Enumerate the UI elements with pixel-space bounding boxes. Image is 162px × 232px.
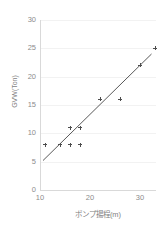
y-axis-title: GVW(Ton) [11, 52, 18, 132]
x-tick-text: 10 [29, 193, 51, 203]
x-axis-title: ポンプ揚程(m) [40, 208, 156, 219]
y-tick-text: 20 [18, 73, 36, 81]
data-point [59, 143, 62, 146]
trendline [40, 20, 156, 190]
y-tick-label: 15 [18, 101, 36, 109]
data-point [99, 98, 102, 101]
y-tick-text: 15 [18, 101, 36, 109]
x-axis-line [40, 190, 156, 191]
y-tick-label: 20 [18, 73, 36, 81]
y-tick-label: 5 [18, 158, 36, 166]
y-tick-label: 10 [18, 129, 36, 137]
x-tick-label: 10 [29, 193, 51, 203]
data-point [79, 143, 82, 146]
data-point [69, 126, 72, 129]
x-tick-label: 20 [79, 193, 101, 203]
y-tick-text: 10 [18, 129, 36, 137]
y-tick-text: 30 [18, 16, 36, 24]
data-point [154, 47, 157, 50]
data-point [119, 98, 122, 101]
y-tick-label: 30 [18, 16, 36, 24]
data-point [79, 126, 82, 129]
x-tick-text: 30 [129, 193, 151, 203]
scatter-chart: GVW(Ton) ポンプ揚程(m) 051015202530 102030 [0, 0, 162, 232]
x-tick-text: 20 [79, 193, 101, 203]
data-point [69, 143, 72, 146]
y-axis-line [40, 20, 41, 191]
y-tick-label: 25 [18, 44, 36, 52]
plot-area [40, 20, 156, 190]
data-point [139, 64, 142, 67]
y-tick-text: 5 [18, 158, 36, 166]
y-tick-text: 25 [18, 44, 36, 52]
x-tick-label: 30 [129, 193, 151, 203]
data-point [44, 143, 47, 146]
